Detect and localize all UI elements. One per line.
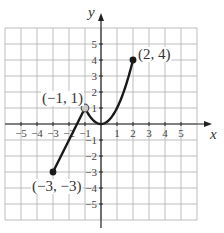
y-tick-label: −1 [85,134,97,146]
x-tick-label: −5 [15,127,27,139]
x-tick-label: 4 [162,127,168,139]
y-tick-label: 1 [92,102,98,114]
x-tick-label: 1 [114,127,120,139]
y-tick-label: −3 [85,166,97,178]
x-tick-label: 2 [130,127,136,139]
y-axis-arrow-icon [98,13,104,21]
filled-point [50,169,57,176]
x-tick-label: 5 [178,127,184,139]
point-label: (−3, −3) [32,178,81,195]
y-tick-label: −2 [85,150,97,162]
y-tick-label: 4 [92,54,98,66]
x-tick-label: −4 [31,127,43,139]
x-axis-label: x [209,126,217,142]
y-tick-label: 2 [92,86,98,98]
function-graph: −5−4−3−2−112345−5−4−3−2−112345 (2, 4)(−1… [0,0,224,233]
y-tick-label: −5 [85,198,97,210]
y-tick-label: 3 [92,70,98,82]
point-label: (2, 4) [138,46,171,63]
x-tick-label: −3 [47,127,59,139]
x-tick-label: 3 [146,127,152,139]
point-label: (−1, 1) [42,90,83,107]
y-tick-label: −4 [85,182,97,194]
y-tick-label: 5 [92,38,98,50]
y-axis-label: y [86,4,95,20]
filled-point [130,57,137,64]
